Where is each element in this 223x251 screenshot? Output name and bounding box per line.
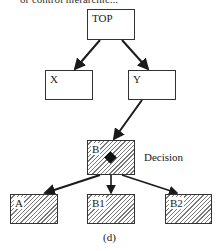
node-b-label: B xyxy=(91,143,100,155)
node-b2-label: B2 xyxy=(169,197,184,209)
node-x: X xyxy=(45,70,93,100)
node-y-label: Y xyxy=(132,73,142,85)
node-b1-label: B1 xyxy=(91,197,106,209)
edge-top-x xyxy=(75,40,100,69)
edge-b-b2 xyxy=(122,175,177,193)
node-top-label: TOP xyxy=(91,12,114,24)
node-y: Y xyxy=(128,70,176,100)
figure-caption: (d) xyxy=(103,231,116,243)
decision-label: Decision xyxy=(144,151,183,163)
node-b: B xyxy=(87,140,135,175)
node-b2: B2 xyxy=(165,194,212,224)
node-b1: B1 xyxy=(87,194,135,224)
node-top: TOP xyxy=(87,9,135,40)
edge-b-a xyxy=(45,175,100,193)
node-x-label: X xyxy=(49,73,59,85)
node-a-label: A xyxy=(14,197,24,209)
decision-diamond-icon xyxy=(104,151,117,164)
node-a: A xyxy=(10,194,58,224)
edge-top-y xyxy=(122,40,148,69)
edge-y-b xyxy=(114,100,142,139)
